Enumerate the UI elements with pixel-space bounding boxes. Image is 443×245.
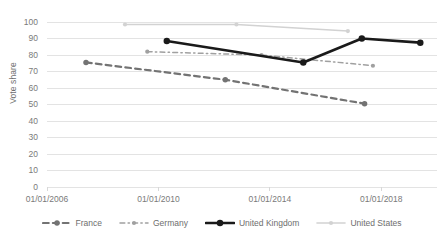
legend-item-label: France <box>76 218 102 228</box>
data-point-marker <box>346 29 350 33</box>
data-point-marker <box>359 35 366 42</box>
series-line <box>86 62 365 103</box>
data-point-marker <box>83 60 89 66</box>
data-point-marker <box>145 50 149 54</box>
data-point-marker <box>223 77 229 83</box>
data-point-marker <box>417 39 424 46</box>
series-germany <box>145 50 375 68</box>
legend-swatch-icon <box>205 218 235 228</box>
data-point-marker <box>123 22 127 26</box>
data-point-marker <box>164 38 171 45</box>
data-point-marker <box>371 64 375 68</box>
line-chart: Vote share 1009080706050403020100 01/01/… <box>0 0 443 245</box>
legend-item-united-states[interactable]: United States <box>316 218 401 228</box>
legend-swatch-icon <box>42 218 72 228</box>
plot-area <box>0 0 443 245</box>
chart-legend: FranceGermanyUnited KingdomUnited States <box>0 218 443 228</box>
legend-item-france[interactable]: France <box>42 218 102 228</box>
series-united-states <box>123 22 350 33</box>
series-united-kingdom <box>164 35 424 65</box>
x-axis-tickmarks <box>47 187 381 191</box>
legend-item-label: Germany <box>153 218 188 228</box>
legend-item-label: United Kingdom <box>239 218 299 228</box>
series-france <box>83 60 367 107</box>
legend-swatch-icon <box>316 218 346 228</box>
gridlines <box>47 22 437 187</box>
series-line <box>167 39 420 63</box>
legend-item-label: United States <box>350 218 401 228</box>
data-point-marker <box>234 22 238 26</box>
legend-item-germany[interactable]: Germany <box>119 218 188 228</box>
data-series-layer <box>83 22 423 106</box>
legend-item-united-kingdom[interactable]: United Kingdom <box>205 218 299 228</box>
data-point-marker <box>300 59 307 66</box>
data-point-marker <box>362 101 368 107</box>
legend-swatch-icon <box>119 218 149 228</box>
